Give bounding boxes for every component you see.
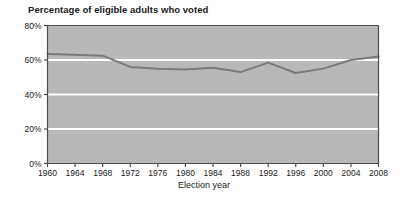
x-tick-label: 1988 bbox=[231, 168, 250, 178]
x-tick-label: 1960 bbox=[38, 168, 57, 178]
y-tick-label: 40% bbox=[24, 90, 41, 100]
x-tick-label: 1976 bbox=[148, 168, 167, 178]
x-axis-ticks: 1960196419681972197619801984198819921996… bbox=[38, 164, 388, 179]
line-chart-plot: 0%20%40%60%80% 1960196419681972197619801… bbox=[0, 0, 408, 201]
x-tick-label: 1984 bbox=[204, 168, 223, 178]
chart-figure: Percentage of eligible adults who voted … bbox=[0, 0, 408, 201]
x-tick-label: 1996 bbox=[286, 168, 305, 178]
x-tick-label: 2004 bbox=[341, 168, 360, 178]
x-tick-label: 1992 bbox=[259, 168, 278, 178]
y-tick-label: 80% bbox=[24, 21, 41, 31]
y-tick-label: 60% bbox=[24, 55, 41, 65]
x-tick-label: 1980 bbox=[176, 168, 195, 178]
x-tick-label: 1972 bbox=[121, 168, 140, 178]
x-tick-label: 1964 bbox=[66, 168, 85, 178]
x-tick-label: 2000 bbox=[314, 168, 333, 178]
y-axis-ticks: 0%20%40%60%80% bbox=[24, 21, 47, 169]
x-tick-label: 2008 bbox=[369, 168, 388, 178]
x-axis-title: Election year bbox=[0, 180, 408, 190]
x-tick-label: 1968 bbox=[93, 168, 112, 178]
y-tick-label: 20% bbox=[24, 124, 41, 134]
